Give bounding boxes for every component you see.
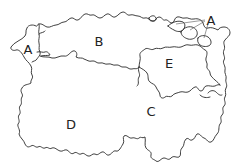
boundary-b-south: [40, 51, 139, 69]
region-label-d: D: [66, 118, 76, 131]
map-boundaries: [0, 0, 235, 168]
boundary-e: [139, 45, 220, 98]
region-label-a-west: A: [24, 43, 33, 56]
region-map: A B A E C D: [0, 0, 235, 168]
boundary-c-notch: [200, 91, 222, 98]
leader-line-2: [190, 21, 205, 30]
boundary-a-ne-4: [149, 16, 156, 22]
region-label-e: E: [165, 57, 173, 70]
region-label-b: B: [95, 35, 104, 48]
region-label-c: C: [146, 105, 155, 118]
boundary-c-d: [137, 67, 140, 86]
region-label-a-northeast: A: [207, 14, 216, 27]
boundary-a-ne-2: [181, 27, 197, 40]
